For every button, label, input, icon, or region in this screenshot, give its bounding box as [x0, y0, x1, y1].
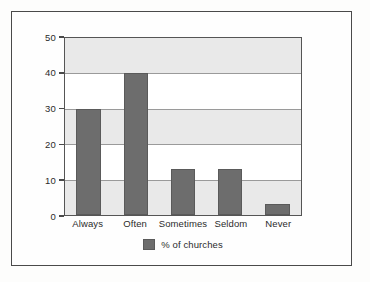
x-axis-tick-label: Never [255, 218, 302, 229]
bar-series [65, 38, 301, 215]
y-axis-tick-label: 30 [45, 103, 56, 114]
x-axis-tick-label: Always [64, 218, 111, 229]
y-axis-tick: 10 [45, 174, 64, 186]
y-axis-tick: 50 [45, 31, 64, 43]
bar-chart: 0 10 20 30 40 [12, 12, 353, 267]
y-axis-tick-label: 50 [45, 32, 56, 43]
bar-slot [207, 38, 254, 215]
y-axis: 0 10 20 30 40 [12, 37, 64, 216]
bar [171, 169, 196, 215]
x-axis: Always Often Sometimes Seldom Never [64, 218, 302, 229]
bar [218, 169, 243, 215]
bar-slot [254, 38, 301, 215]
y-axis-tick: 0 [51, 210, 64, 222]
x-axis-tick-label: Sometimes [159, 218, 207, 229]
y-axis-tick-label: 20 [45, 139, 56, 150]
legend-label: % of churches [161, 239, 223, 250]
bar-slot [159, 38, 206, 215]
y-axis-tick: 20 [45, 138, 64, 150]
x-axis-tick-label: Often [111, 218, 158, 229]
y-axis-tick-label: 10 [45, 175, 56, 186]
bar-slot [112, 38, 159, 215]
bar [76, 109, 101, 215]
y-axis-tick-label: 0 [51, 211, 56, 222]
y-axis-tick: 40 [45, 67, 64, 79]
figure-frame: 0 10 20 30 40 [11, 11, 352, 266]
scanned-page: 0 10 20 30 40 [0, 0, 370, 282]
plot-area [64, 37, 302, 216]
legend-swatch-icon [143, 239, 155, 250]
bar-slot [65, 38, 112, 215]
chart-legend: % of churches [64, 239, 302, 250]
bar [265, 204, 290, 215]
bar [124, 73, 149, 215]
y-axis-tick-label: 40 [45, 67, 56, 78]
y-axis-tick: 30 [45, 103, 64, 115]
x-axis-tick-label: Seldom [207, 218, 254, 229]
